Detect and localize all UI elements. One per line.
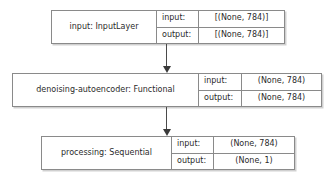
arrow-head [163, 129, 171, 136]
node-processing-input-shape: (None, 784) [214, 137, 294, 154]
node-processing-output-label: output: [172, 154, 213, 170]
down-arrow-icon-input-to-autoencoder [161, 44, 173, 73]
node-input-input-label: input: [157, 11, 198, 28]
node-processing-io-values: (None, 784) (None, 1) [213, 137, 294, 169]
node-input-output-label: output: [157, 28, 198, 44]
node-input-input-shape: [(None, 784)] [199, 11, 284, 28]
arrow-head [163, 66, 171, 73]
node-autoencoder-io-values: (None, 784) (None, 784) [241, 74, 321, 106]
node-processing-input-label: input: [172, 137, 213, 154]
model-graph-canvas: input: InputLayer input: output: [(None,… [0, 0, 332, 181]
node-input-io-values: [(None, 784)] [(None, 784)] [198, 11, 284, 43]
node-autoencoder-output-shape: (None, 784) [242, 91, 321, 107]
node-autoencoder-title: denoising-autoencoder: Functional [13, 74, 198, 106]
arrow-shaft [166, 44, 167, 66]
down-arrow-icon-autoencoder-to-processing [161, 107, 173, 136]
node-input-title: input: InputLayer [52, 11, 156, 43]
node-processing-output-shape: (None, 1) [214, 154, 294, 170]
node-autoencoder-output-label: output: [199, 91, 241, 107]
graph-node-processing[interactable]: processing: Sequential input: output: (N… [41, 136, 295, 170]
node-autoencoder-input-shape: (None, 784) [242, 74, 321, 91]
node-input-io-labels: input: output: [156, 11, 198, 43]
graph-node-denoising-autoencoder[interactable]: denoising-autoencoder: Functional input:… [12, 73, 322, 107]
node-input-output-shape: [(None, 784)] [199, 28, 284, 44]
graph-node-input[interactable]: input: InputLayer input: output: [(None,… [51, 10, 285, 44]
node-processing-title: processing: Sequential [42, 137, 171, 169]
arrow-shaft [166, 107, 167, 129]
node-processing-io-labels: input: output: [171, 137, 213, 169]
node-autoencoder-input-label: input: [199, 74, 241, 91]
node-autoencoder-io-labels: input: output: [198, 74, 241, 106]
